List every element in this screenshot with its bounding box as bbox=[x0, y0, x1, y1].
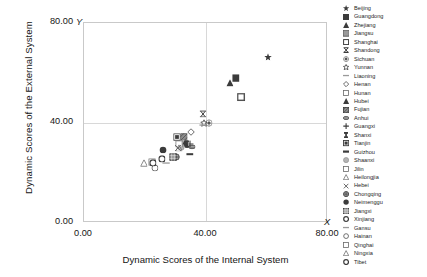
y-tick-label-80: 80.00 bbox=[19, 16, 73, 26]
legend-marker-dash-icon bbox=[338, 72, 354, 80]
legend-item-qinghai[interactable]: Qinghai bbox=[338, 241, 427, 249]
legend-item-zhejiang[interactable]: Zhejiang bbox=[338, 21, 427, 29]
legend-marker-square-open-sm-icon bbox=[338, 89, 354, 97]
data-point-shandong bbox=[199, 110, 207, 118]
legend-label: Tianjin bbox=[354, 139, 370, 147]
legend-item-guangxi[interactable]: Guangxi bbox=[338, 122, 427, 130]
legend-label: Guangxi bbox=[354, 122, 375, 130]
legend-label: Hainan bbox=[354, 232, 372, 240]
data-point-shanxi bbox=[185, 140, 189, 148]
legend-marker-triangle-open-icon bbox=[338, 249, 354, 257]
legend-marker-triangle-open-icon bbox=[338, 173, 354, 181]
data-point-henan bbox=[188, 128, 196, 136]
data-point-liaoning bbox=[199, 122, 207, 127]
y-tick-40-wrap: 40.00 bbox=[19, 116, 73, 128]
legend-item-ningxia[interactable]: Ningxia bbox=[338, 249, 427, 257]
legend-marker-triangle-filled-icon bbox=[338, 21, 354, 29]
legend-item-sichuan[interactable]: Sichuan bbox=[338, 55, 427, 63]
legend-marker-cross-x-icon bbox=[338, 181, 354, 189]
data-point-hebei bbox=[174, 144, 182, 152]
legend-label: Fujian bbox=[354, 105, 369, 113]
legend-label: Yunnan bbox=[354, 63, 373, 71]
data-point-gansu bbox=[163, 160, 171, 165]
legend-item-anhui[interactable]: Anhui bbox=[338, 114, 427, 122]
legend-item-hunan[interactable]: Hunan bbox=[338, 89, 427, 97]
legend-item-tibet[interactable]: Tibet bbox=[338, 258, 427, 266]
plot-area bbox=[83, 22, 327, 222]
legend-label: Hebei bbox=[354, 181, 369, 189]
legend-marker-circle-open-lg-icon bbox=[338, 258, 354, 266]
legend-item-xinjiang[interactable]: Xinjiang bbox=[338, 215, 427, 223]
legend-item-shaanxi[interactable]: Shaanxi bbox=[338, 156, 427, 164]
legend-label: Jiangxi bbox=[354, 207, 372, 215]
legend-item-tianjin[interactable]: Tianjin bbox=[338, 139, 427, 147]
legend-marker-square-filled-icon bbox=[338, 12, 354, 20]
legend-item-shandong[interactable]: Shandong bbox=[338, 46, 427, 54]
legend-label: Heilongjia bbox=[354, 173, 379, 181]
legend-item-liaoning[interactable]: Liaoning bbox=[338, 72, 427, 80]
legend-item-fujian[interactable]: Fujian bbox=[338, 105, 427, 113]
legend-marker-square-grid-icon bbox=[338, 207, 354, 215]
legend-item-hainan[interactable]: Hainan bbox=[338, 232, 427, 240]
legend-marker-circle-open-icon bbox=[338, 232, 354, 240]
legend-item-hebei[interactable]: Hebei bbox=[338, 181, 427, 189]
legend-marker-square-hatch-icon bbox=[338, 105, 354, 113]
legend-item-jiangsu[interactable]: Jiangsu bbox=[338, 29, 427, 37]
legend-label: Henan bbox=[354, 80, 371, 88]
legend-label: Qinghai bbox=[354, 241, 373, 249]
legend-marker-triangle-filled-icon bbox=[338, 97, 354, 105]
legend-marker-barbell-icon bbox=[338, 131, 354, 139]
legend-item-neimenggu[interactable]: Neimenggu bbox=[338, 198, 427, 206]
legend-item-shanghai[interactable]: Shanghai bbox=[338, 38, 427, 46]
legend-item-hubei[interactable]: Hubei bbox=[338, 97, 427, 105]
legend-item-chongqing[interactable]: Chongqing bbox=[338, 190, 427, 198]
data-point-jiangxi bbox=[169, 153, 177, 161]
legend-item-shanxi[interactable]: Shanxi bbox=[338, 131, 427, 139]
legend-marker-heavy-dash-icon bbox=[338, 148, 354, 156]
y-axis-title: Dynamic Scores of the External System bbox=[23, 0, 34, 215]
legend-marker-diamond-open-icon bbox=[338, 80, 354, 88]
legend-item-beijing[interactable]: Beijing bbox=[338, 4, 427, 12]
x-tick-label-0: 0.00 bbox=[53, 228, 113, 238]
legend-marker-circle-dot-icon bbox=[338, 55, 354, 63]
legend-label: Guangdong bbox=[354, 12, 383, 20]
legend-marker-circle-filled-icon bbox=[338, 198, 354, 206]
legend-item-gansu[interactable]: Gansu bbox=[338, 224, 427, 232]
legend-item-jiangxi[interactable]: Jiangxi bbox=[338, 207, 427, 215]
legend-item-heilongjia[interactable]: Heilongjia bbox=[338, 173, 427, 181]
legend-marker-square-open-icon bbox=[338, 38, 354, 46]
legend-label: Hunan bbox=[354, 89, 371, 97]
legend-marker-dash-icon bbox=[338, 224, 354, 232]
legend-marker-star-filled-icon bbox=[338, 4, 354, 12]
legend-item-henan[interactable]: Henan bbox=[338, 80, 427, 88]
legend-item-guizhou[interactable]: Guizhou bbox=[338, 148, 427, 156]
legend-label: Shaanxi bbox=[354, 156, 374, 164]
legend-item-jilin[interactable]: Jilin bbox=[338, 165, 427, 173]
legend-label: Neimenggu bbox=[354, 198, 383, 206]
legend-label: Xinjiang bbox=[354, 215, 374, 223]
legend-marker-ellipse-filled-icon bbox=[338, 114, 354, 122]
legend-label: Jilin bbox=[354, 165, 364, 173]
legend-item-guangdong[interactable]: Guangdong bbox=[338, 12, 427, 20]
x-axis-title: Dynamic Scores of the Internal System bbox=[83, 254, 328, 265]
legend-marker-square-open-sm-icon bbox=[338, 165, 354, 173]
x-tick-label-40: 40.00 bbox=[175, 228, 235, 238]
legend-label: Jiangsu bbox=[354, 29, 373, 37]
legend-label: Zhejiang bbox=[354, 21, 376, 29]
legend-item-yunnan[interactable]: Yunnan bbox=[338, 63, 427, 71]
legend-marker-square-shaded-icon bbox=[338, 29, 354, 37]
legend-marker-square-box-icon bbox=[338, 139, 354, 147]
data-point-zhejiang bbox=[226, 79, 234, 87]
data-point-neimenggu bbox=[160, 146, 168, 154]
legend-label: Ningxia bbox=[354, 249, 373, 257]
legend-label: Beijing bbox=[354, 4, 371, 12]
legend-label: Shanxi bbox=[354, 131, 371, 139]
legend-label: Shandong bbox=[354, 46, 380, 54]
data-point-ningxia bbox=[140, 160, 148, 168]
scatter-chart-figure: Dynamic Scores of the External System 80… bbox=[0, 0, 427, 277]
legend: BeijingGuangdongZhejiangJiangsuShanghaiS… bbox=[338, 4, 427, 274]
legend-label: Gansu bbox=[354, 224, 371, 232]
legend-marker-circle-grey-icon bbox=[338, 156, 354, 164]
y-tick-label-0: 0.00 bbox=[19, 216, 73, 226]
legend-label: Guizhou bbox=[354, 148, 375, 156]
